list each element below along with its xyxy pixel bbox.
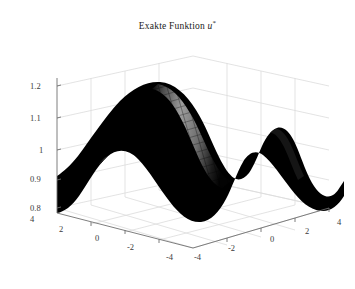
- y-tick-label: -2: [127, 242, 134, 252]
- z-tick-label: 1.1: [30, 113, 41, 123]
- y-tick-label: 2: [59, 224, 63, 234]
- x-tick-label: -2: [228, 243, 235, 253]
- x-tick-label: 0: [270, 234, 274, 244]
- figure-canvas: Exakte Funktion u*: [0, 0, 355, 289]
- z-tick-label: 1.2: [30, 81, 41, 91]
- y-tick-label: 0: [95, 233, 99, 243]
- x-tick-label: 2: [305, 226, 309, 236]
- surface-body: [57, 82, 344, 222]
- z-tick-label: 0.9: [30, 174, 41, 184]
- x-tick-label: 4: [337, 217, 341, 227]
- z-tick-label: 1: [39, 145, 43, 155]
- surface-plot: [0, 0, 355, 289]
- z-tick-label: 0.8: [30, 203, 41, 213]
- x-tick-label: -4: [194, 252, 201, 262]
- y-tick-label: 4: [30, 214, 34, 224]
- y-tick-label: -4: [166, 252, 173, 262]
